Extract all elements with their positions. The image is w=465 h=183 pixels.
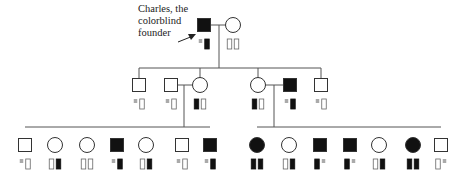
y-chromosome-icon [205, 159, 209, 163]
x-colorblind-chromosome-icon [380, 159, 385, 169]
female-icon [139, 138, 154, 153]
x-normal-chromosome-icon [88, 159, 93, 169]
affected-male-icon [111, 139, 124, 152]
x-normal-chromosome-icon [140, 159, 145, 169]
pedigree-individuals [19, 18, 448, 170]
x-colorblind-chromosome-icon [258, 159, 263, 169]
female-icon [193, 78, 208, 93]
x-normal-chromosome-icon [259, 99, 264, 109]
x-colorblind-chromosome-icon [345, 159, 350, 169]
individual-III-3 [80, 138, 95, 170]
female-icon [48, 138, 63, 153]
pedigree-lines [25, 25, 441, 127]
affected-male-icon [198, 19, 211, 32]
y-chromosome-icon [112, 159, 116, 163]
y-chromosome-icon [443, 159, 447, 163]
annotation-line-3: founder [138, 27, 188, 39]
affected-male-icon [284, 79, 297, 92]
individual-III-10 [314, 139, 327, 170]
x-normal-chromosome-icon [26, 159, 31, 169]
female-icon [80, 138, 95, 153]
affected-male-icon [314, 139, 327, 152]
male-icon [435, 139, 448, 152]
y-chromosome-icon [134, 99, 138, 103]
x-colorblind-chromosome-icon [205, 39, 210, 49]
x-colorblind-chromosome-icon [211, 159, 216, 169]
individual-III-14 [435, 139, 448, 170]
individual-II-2 [165, 79, 178, 110]
annotation-line-1: Charles, the [138, 3, 188, 15]
y-chromosome-icon [352, 159, 356, 163]
affected-male-icon [344, 139, 357, 152]
individual-II-5 [284, 79, 297, 110]
x-normal-chromosome-icon [49, 159, 54, 169]
individual-III-13 [406, 138, 421, 170]
x-normal-chromosome-icon [172, 99, 177, 109]
individual-II-1 [133, 79, 146, 110]
individual-II-4 [251, 78, 266, 110]
female-icon [282, 138, 297, 153]
individual-III-7 [204, 139, 217, 170]
individual-III-6 [176, 139, 189, 170]
x-colorblind-chromosome-icon [291, 99, 296, 109]
y-chromosome-icon [285, 99, 289, 103]
individual-III-2 [48, 138, 63, 170]
female-icon [226, 18, 241, 33]
individual-I-1 [198, 19, 211, 50]
x-colorblind-chromosome-icon [118, 159, 123, 169]
y-chromosome-icon [322, 159, 326, 163]
affected-female-icon [406, 138, 421, 153]
male-icon [165, 79, 178, 92]
y-chromosome-icon [316, 99, 320, 103]
male-icon [315, 79, 328, 92]
x-normal-chromosome-icon [436, 159, 441, 169]
female-icon [251, 78, 266, 93]
male-icon [176, 139, 189, 152]
individual-III-8 [250, 138, 265, 170]
x-normal-chromosome-icon [201, 99, 206, 109]
x-normal-chromosome-icon [322, 99, 327, 109]
y-chromosome-icon [199, 39, 203, 43]
x-normal-chromosome-icon [373, 159, 378, 169]
x-normal-chromosome-icon [140, 99, 145, 109]
x-normal-chromosome-icon [81, 159, 86, 169]
x-normal-chromosome-icon [227, 39, 232, 49]
individual-III-1 [19, 139, 32, 170]
x-colorblind-chromosome-icon [251, 159, 256, 169]
individual-III-4 [111, 139, 124, 170]
x-normal-chromosome-icon [183, 159, 188, 169]
x-colorblind-chromosome-icon [252, 99, 257, 109]
y-chromosome-icon [166, 99, 170, 103]
female-icon [372, 138, 387, 153]
male-icon [133, 79, 146, 92]
pedigree-diagram [0, 0, 465, 183]
x-colorblind-chromosome-icon [414, 159, 419, 169]
individual-III-12 [372, 138, 387, 170]
x-colorblind-chromosome-icon [56, 159, 61, 169]
x-colorblind-chromosome-icon [407, 159, 412, 169]
individual-I-2 [226, 18, 241, 50]
x-colorblind-chromosome-icon [147, 159, 152, 169]
individual-III-9 [282, 138, 297, 170]
individual-II-3 [193, 78, 208, 110]
x-colorblind-chromosome-icon [315, 159, 320, 169]
affected-male-icon [204, 139, 217, 152]
x-colorblind-chromosome-icon [290, 159, 295, 169]
affected-female-icon [250, 138, 265, 153]
individual-III-5 [139, 138, 154, 170]
founder-annotation: Charles, the colorblind founder [138, 3, 188, 39]
x-normal-chromosome-icon [234, 39, 239, 49]
x-normal-chromosome-icon [283, 159, 288, 169]
annotation-line-2: colorblind [138, 15, 188, 27]
individual-II-6 [315, 79, 328, 110]
male-icon [19, 139, 32, 152]
y-chromosome-icon [177, 159, 181, 163]
x-colorblind-chromosome-icon [194, 99, 199, 109]
individual-III-11 [344, 139, 357, 170]
y-chromosome-icon [20, 159, 24, 163]
